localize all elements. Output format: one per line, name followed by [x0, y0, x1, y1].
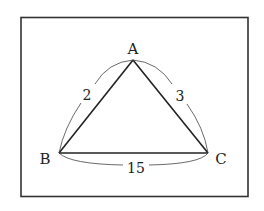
vertex-label-a: A	[127, 40, 139, 58]
triangle-edges	[59, 60, 208, 153]
edge-label-ac: 3	[176, 88, 185, 104]
edge-ac	[133, 60, 208, 153]
arc-bc-right	[149, 153, 208, 165]
triangle-diagram: A B C 2 3 15	[0, 0, 264, 211]
arc-ac-lower	[187, 104, 208, 153]
arc-ab-lower	[59, 103, 81, 153]
arc-ac-upper	[133, 60, 172, 84]
arc-ab-upper	[95, 60, 133, 84]
vertex-label-b: B	[39, 150, 50, 168]
vertex-label-c: C	[215, 150, 226, 168]
length-arcs	[59, 60, 208, 165]
edge-label-bc: 15	[127, 160, 145, 176]
arc-bc-left	[59, 153, 123, 165]
edge-label-ab: 2	[83, 87, 92, 103]
edge-ab	[59, 60, 133, 153]
